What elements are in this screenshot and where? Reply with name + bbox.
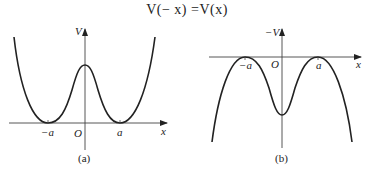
- y-axis-label-b: −V: [265, 26, 280, 38]
- caption-a: (a): [78, 152, 91, 165]
- diagram-canvas: V −a O a x (a) −V −a O a x (b): [0, 0, 374, 175]
- x-axis-label-b: x: [355, 58, 361, 70]
- origin-label-a: O: [74, 127, 82, 139]
- tick-label-neg-a-a: −a: [41, 126, 54, 138]
- panel-b: −V −a O a x (b): [209, 26, 361, 165]
- tick-label-neg-a-b: −a: [239, 59, 252, 71]
- x-axis-label-a: x: [160, 125, 166, 137]
- y-axis-label-a: V: [75, 25, 83, 37]
- panel-a: V −a O a x (a): [9, 25, 167, 165]
- potential-curve-a: [14, 37, 155, 123]
- origin-label-b: O: [271, 58, 279, 70]
- caption-b: (b): [275, 152, 288, 165]
- tick-label-a-b: a: [316, 59, 322, 71]
- tick-label-a-a: a: [117, 126, 123, 138]
